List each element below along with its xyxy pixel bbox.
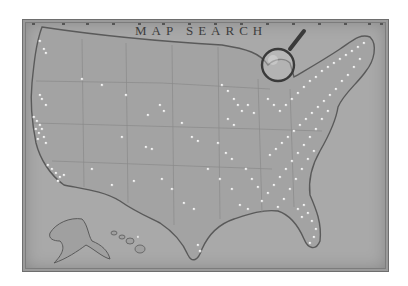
map-title: MAP SEARCH [135,23,267,39]
magnifying-glass-icon [262,31,304,81]
alaska-landmass [50,219,110,263]
hawaii-islands [111,231,145,253]
us-map[interactable] [22,19,387,270]
